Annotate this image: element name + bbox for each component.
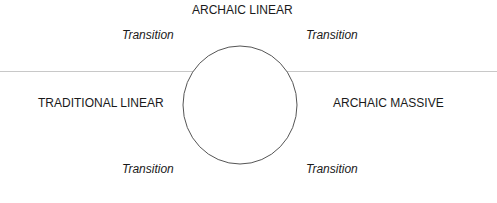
label-archaic-massive: ARCHAIC MASSIVE	[333, 96, 444, 110]
center-circle	[183, 46, 297, 164]
label-archaic-linear: ARCHAIC LINEAR	[192, 3, 293, 17]
label-transition-upper-left: Transition	[122, 28, 174, 42]
label-transition-lower-right: Transition	[306, 162, 358, 176]
label-transition-upper-right: Transition	[306, 28, 358, 42]
label-transition-lower-left: Transition	[122, 162, 174, 176]
label-traditional-linear: TRADITIONAL LINEAR	[38, 96, 164, 110]
